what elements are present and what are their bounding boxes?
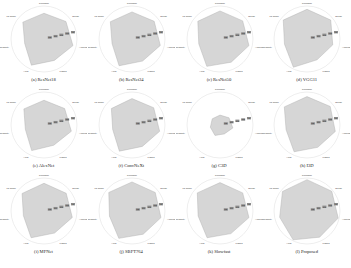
- axis-label: AUC: [287, 156, 292, 159]
- axis-label: Precision: [127, 174, 138, 177]
- radar-chart: PrecisionRecallAccuracyKappaAUCSpecifici…: [263, 86, 350, 172]
- axis-label: Kappa: [323, 156, 331, 159]
- axis-label: Recall: [72, 15, 79, 18]
- chart-caption: (c) ResNet50: [176, 77, 263, 82]
- axis-label: AUC: [23, 70, 28, 73]
- radar-data-area: [210, 115, 233, 135]
- axis-label: Precision: [127, 88, 138, 91]
- radar-data-area: [23, 13, 73, 65]
- axis-label: Specificity: [0, 46, 10, 49]
- chart-caption: (f) ConvNeXt: [88, 163, 175, 168]
- axis-label: Accuracy: [342, 218, 350, 221]
- chart-caption: (k) Slowfast: [176, 249, 263, 254]
- axis-label: F1-score: [6, 15, 16, 18]
- chart-caption: (e) AlexNet: [0, 163, 87, 168]
- axis-label: Recall: [72, 187, 79, 190]
- chart-caption: (b) ResNet34: [88, 77, 175, 82]
- axis-label: Specificity: [176, 218, 186, 221]
- axis-label: Precision: [39, 174, 50, 177]
- axis-label: Precision: [302, 88, 313, 91]
- axis-label: AUC: [111, 242, 116, 245]
- radar-data-area: [280, 180, 339, 240]
- radar-data-area: [284, 9, 333, 67]
- axis-label: F1-score: [94, 15, 104, 18]
- axis-label: Accuracy: [255, 46, 263, 49]
- axis-label: Specificity: [263, 132, 273, 135]
- axis-label: Specificity: [88, 46, 98, 49]
- axis-label: Recall: [72, 101, 79, 104]
- axis-label: AUC: [111, 156, 116, 159]
- axis-label: Precision: [215, 174, 226, 177]
- radar-chart: PrecisionRecallAccuracyKappaAUCSpecifici…: [263, 0, 350, 86]
- axis-label: Recall: [160, 15, 167, 18]
- axis-label: Specificity: [88, 218, 98, 221]
- axis-label: AUC: [199, 70, 204, 73]
- axis-label: Precision: [127, 2, 138, 5]
- axis-label: Specificity: [176, 46, 186, 49]
- axis-label: F1-score: [182, 101, 192, 104]
- axis-label: Kappa: [235, 156, 243, 159]
- radar-chart: PrecisionRecallAccuracyKappaAUCSpecifici…: [0, 0, 87, 86]
- axis-label: Specificity: [263, 218, 273, 221]
- axis-label: F1-score: [270, 15, 280, 18]
- axis-label: Recall: [335, 15, 342, 18]
- axis-label: Kappa: [147, 156, 155, 159]
- radar-chart-grid: PrecisionRecallAccuracyKappaAUCSpecifici…: [0, 0, 351, 268]
- radar-chart: PrecisionRecallAccuracyKappaAUCSpecifici…: [263, 172, 350, 258]
- chart-caption: (i) MFNet: [0, 249, 87, 254]
- chart-caption: (j) SBFT764: [88, 249, 175, 254]
- axis-label: Precision: [215, 2, 226, 5]
- axis-label: F1-score: [270, 187, 280, 190]
- radar-data-area: [24, 100, 71, 150]
- axis-label: Accuracy: [79, 218, 87, 221]
- axis-label: F1-score: [270, 101, 280, 104]
- axis-label: Kappa: [60, 156, 68, 159]
- chart-caption: (d) VGG11: [263, 77, 350, 82]
- axis-label: Recall: [248, 101, 255, 104]
- axis-label: Specificity: [176, 132, 186, 135]
- axis-label: Recall: [160, 101, 167, 104]
- axis-label: AUC: [199, 242, 204, 245]
- axis-label: Precision: [302, 174, 313, 177]
- axis-label: Specificity: [263, 46, 273, 49]
- chart-caption: (a) ResNet18: [0, 77, 87, 82]
- axis-label: Recall: [160, 187, 167, 190]
- axis-label: F1-score: [94, 101, 104, 104]
- axis-label: Kappa: [235, 70, 243, 73]
- chart-caption: (l) Proposed: [263, 249, 350, 254]
- axis-label: Kappa: [323, 242, 331, 245]
- axis-label: Recall: [248, 15, 255, 18]
- radar-data-area: [111, 99, 159, 152]
- axis-label: Recall: [335, 101, 342, 104]
- axis-label: Accuracy: [79, 132, 87, 135]
- radar-data-area: [197, 11, 248, 66]
- axis-label: Kappa: [60, 242, 68, 245]
- radar-chart: PrecisionRecallAccuracyKappaAUCSpecifici…: [0, 172, 87, 258]
- axis-label: Precision: [302, 2, 313, 5]
- axis-label: Kappa: [235, 242, 243, 245]
- radar-chart: PrecisionRecallAccuracyKappaAUCSpecifici…: [0, 86, 87, 172]
- axis-label: Accuracy: [342, 132, 350, 135]
- radar-chart: PrecisionRecallAccuracyKappaAUCSpecifici…: [88, 86, 175, 172]
- axis-label: AUC: [23, 242, 28, 245]
- axis-label: Recall: [335, 187, 342, 190]
- axis-label: Kappa: [323, 70, 331, 73]
- radar-data-area: [110, 12, 160, 66]
- radar-data-area: [109, 182, 161, 238]
- axis-label: Recall: [248, 187, 255, 190]
- radar-chart: PrecisionRecallAccuracyKappaAUCSpecifici…: [88, 172, 175, 258]
- axis-label: AUC: [199, 156, 204, 159]
- axis-label: Specificity: [0, 132, 10, 135]
- radar-data-area: [197, 183, 249, 238]
- axis-label: Specificity: [88, 132, 98, 135]
- axis-label: Accuracy: [167, 46, 175, 49]
- axis-label: F1-score: [6, 101, 16, 104]
- chart-caption: (g) C3D: [176, 163, 263, 168]
- axis-label: Accuracy: [255, 132, 263, 135]
- radar-chart: PrecisionRecallAccuracyKappaAUCSpecifici…: [88, 0, 175, 86]
- radar-chart: PrecisionRecallAccuracyKappaAUCSpecifici…: [176, 0, 263, 86]
- axis-label: Accuracy: [167, 218, 175, 221]
- radar-data-area: [285, 97, 336, 152]
- axis-label: Precision: [215, 88, 226, 91]
- axis-label: Accuracy: [255, 218, 263, 221]
